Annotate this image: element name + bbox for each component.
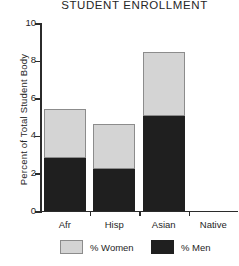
y-tick-label: 10 (25, 17, 36, 28)
bar-segment-women (93, 124, 135, 169)
legend-label-men: % Men (181, 242, 211, 253)
bar-segment-men (143, 116, 185, 211)
bar-segment-men (44, 158, 86, 211)
bar-afr (44, 109, 86, 211)
bar-asian (143, 52, 185, 211)
x-tick-mark (139, 211, 141, 216)
y-axis-line (40, 23, 42, 212)
legend-swatch-women (60, 240, 83, 254)
x-tick-label-native: Native (183, 219, 239, 230)
bar-segment-men (93, 169, 135, 210)
chart-title: STUDENT ENROLLMENT (52, 0, 217, 11)
y-tick-label: 8 (31, 54, 36, 65)
legend-swatch-men (151, 240, 174, 254)
bar-segment-women (143, 52, 185, 116)
plot-area: 0246810 AfrHispAsianNative (40, 23, 238, 211)
chart-figure: STUDENT ENROLLMENT Percent of Total Stud… (0, 0, 239, 266)
legend-item-women: % Women (60, 240, 134, 254)
x-tick-mark (90, 211, 92, 216)
y-tick-label: 2 (31, 167, 36, 178)
y-tick-label: 0 (31, 205, 36, 216)
chart-legend: % Women % Men (0, 238, 239, 262)
x-tick-mark (189, 211, 191, 216)
y-tick-label: 4 (31, 129, 36, 140)
legend-item-men: % Men (151, 240, 211, 254)
y-axis-label: Percent of Total Student Body (18, 35, 29, 205)
y-tick-label: 6 (31, 92, 36, 103)
legend-label-women: % Women (90, 242, 134, 253)
bar-hisp (93, 124, 135, 210)
bar-segment-women (44, 109, 86, 158)
